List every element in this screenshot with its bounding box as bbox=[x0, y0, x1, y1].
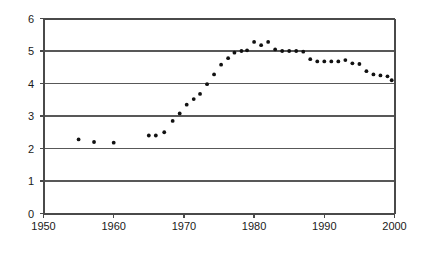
scatter-chart: 195019601970198019902000 0123456 bbox=[0, 0, 428, 258]
x-tick-label-1980: 1980 bbox=[242, 220, 266, 232]
data-point bbox=[92, 140, 96, 144]
data-point bbox=[273, 47, 277, 51]
x-tick-label-1990: 1990 bbox=[312, 220, 336, 232]
x-tick-label-1960: 1960 bbox=[101, 220, 125, 232]
data-point bbox=[350, 61, 354, 65]
data-point bbox=[240, 49, 244, 53]
x-tick-label-1950: 1950 bbox=[31, 220, 55, 232]
data-point bbox=[171, 119, 175, 123]
y-tick-label-1: 1 bbox=[12, 175, 34, 187]
data-point bbox=[280, 49, 284, 53]
data-point bbox=[198, 92, 202, 96]
data-point bbox=[287, 49, 291, 53]
data-point bbox=[245, 48, 249, 52]
data-point bbox=[308, 57, 312, 61]
y-tick-label-2: 2 bbox=[12, 143, 34, 155]
data-point bbox=[315, 60, 319, 64]
data-point bbox=[322, 60, 326, 64]
data-point bbox=[329, 60, 333, 64]
data-point bbox=[77, 138, 81, 142]
data-point bbox=[185, 103, 189, 107]
x-tick-label-1970: 1970 bbox=[172, 220, 196, 232]
data-point bbox=[301, 50, 305, 54]
data-point bbox=[259, 43, 263, 47]
axis-tick-marks bbox=[40, 19, 395, 218]
data-point bbox=[372, 73, 376, 77]
y-tick-label-3: 3 bbox=[12, 110, 34, 122]
data-point bbox=[192, 97, 196, 101]
y-tick-label-6: 6 bbox=[12, 13, 34, 25]
data-point bbox=[226, 56, 230, 60]
data-point bbox=[212, 73, 216, 77]
data-point bbox=[390, 78, 394, 82]
data-point bbox=[266, 40, 270, 44]
data-point bbox=[343, 58, 347, 62]
data-point bbox=[386, 74, 390, 78]
data-point bbox=[365, 69, 369, 73]
data-point bbox=[219, 63, 223, 67]
data-point bbox=[162, 130, 166, 134]
data-point bbox=[336, 60, 340, 64]
data-point bbox=[294, 49, 298, 53]
x-tick-label-2000: 2000 bbox=[382, 220, 406, 232]
data-point bbox=[112, 141, 116, 145]
plot-area bbox=[0, 0, 428, 258]
y-tick-label-5: 5 bbox=[12, 45, 34, 57]
y-tick-label-0: 0 bbox=[12, 208, 34, 220]
data-point bbox=[358, 62, 362, 66]
data-point bbox=[178, 112, 182, 116]
data-point bbox=[147, 134, 151, 138]
data-points bbox=[77, 40, 394, 145]
gridlines bbox=[44, 19, 395, 182]
data-point bbox=[154, 134, 158, 138]
data-point bbox=[233, 51, 237, 55]
data-point bbox=[379, 73, 383, 77]
data-point bbox=[205, 82, 209, 86]
y-tick-label-4: 4 bbox=[12, 78, 34, 90]
data-point bbox=[252, 40, 256, 44]
